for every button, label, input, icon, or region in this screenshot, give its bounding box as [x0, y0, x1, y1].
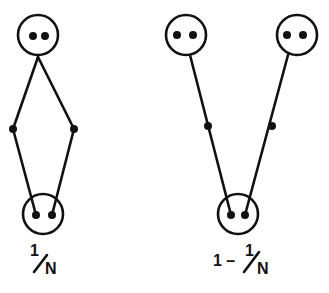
- dot: [227, 211, 235, 219]
- bottom-circle: [218, 194, 258, 234]
- left-diagram: [13, 15, 74, 234]
- line: [13, 57, 38, 129]
- junction-dot: [268, 122, 276, 130]
- left-label: 1 N: [30, 242, 57, 277]
- dot: [32, 211, 40, 219]
- dot: [48, 211, 56, 219]
- label-denominator: N: [45, 260, 57, 277]
- line: [13, 129, 36, 215]
- right-diagram: [166, 15, 317, 234]
- junction-dot: [70, 125, 78, 133]
- line: [245, 55, 288, 215]
- top-circle: [166, 15, 206, 55]
- dot: [241, 211, 249, 219]
- right-label: 1 – 1 N: [213, 242, 269, 277]
- top-circle: [18, 15, 58, 55]
- dot: [29, 32, 37, 40]
- label-numerator: 1: [30, 242, 39, 259]
- dot: [41, 32, 49, 40]
- label-prefix: 1 –: [213, 252, 235, 269]
- diagram-canvas: 1 N 1 – 1 N: [0, 0, 329, 293]
- label-numerator: 1: [245, 242, 254, 259]
- dot: [283, 31, 291, 39]
- junction-dot: [204, 122, 212, 130]
- dot: [189, 31, 197, 39]
- line: [38, 57, 74, 129]
- dot: [173, 31, 181, 39]
- label-denominator: N: [257, 260, 269, 277]
- junction-dot: [9, 125, 17, 133]
- line: [190, 55, 231, 215]
- dot: [299, 31, 307, 39]
- line: [52, 129, 74, 215]
